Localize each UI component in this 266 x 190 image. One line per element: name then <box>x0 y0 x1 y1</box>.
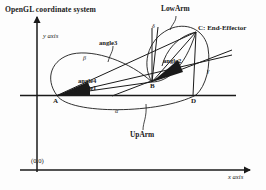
x-axis-label: x axis <box>228 174 243 181</box>
angle-label-angle1: angle1 <box>78 85 96 92</box>
leader-angle3 <box>108 46 113 62</box>
greek-label-delta: δ <box>152 23 155 29</box>
angle-label-angle3: angle3 <box>99 40 117 47</box>
greek-label-beta: β <box>83 55 86 61</box>
point-label-c-end-effector: C: End-Effector <box>198 25 246 32</box>
point-label-a: A <box>53 98 58 105</box>
uparm-sweep-arc <box>57 95 196 110</box>
diagram-canvas: OpenGL coordinate system y axis x axis (… <box>0 0 266 190</box>
page-title: OpenGL coordinate system <box>5 6 96 14</box>
angle-label-angle4: angle4 <box>78 78 96 85</box>
point-label-d: D <box>191 98 196 105</box>
coordinate-axes <box>20 17 250 172</box>
point-label-b: B <box>150 83 155 90</box>
origin-label: (0,0) <box>31 158 44 165</box>
link-label-lowarm: LowArm <box>161 5 190 12</box>
y-axis-label: y axis <box>43 33 58 40</box>
greek-label-alpha: α <box>115 108 118 114</box>
greek-label-gamma: γ <box>207 68 209 74</box>
angle-wedges <box>57 60 183 96</box>
angle-label-angle2: angle2 <box>163 58 181 65</box>
link-label-uparm: UpArm <box>130 131 154 138</box>
